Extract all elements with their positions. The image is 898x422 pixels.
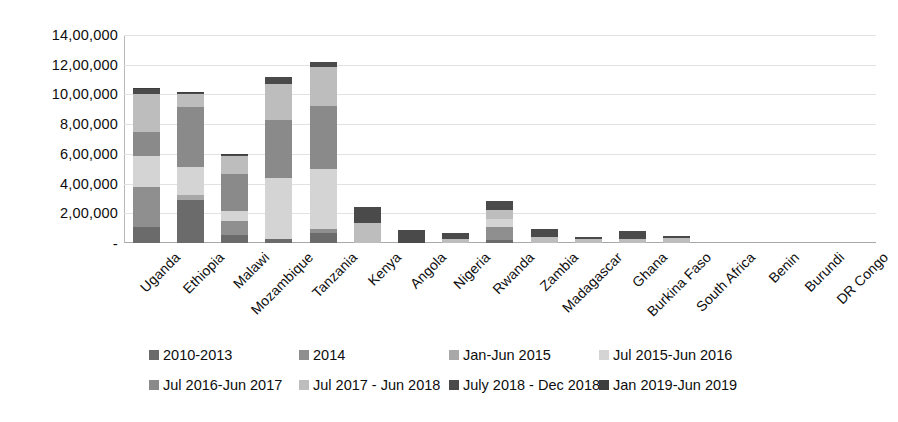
- bar-slot: [345, 35, 389, 243]
- bar-segment[interactable]: [265, 120, 292, 178]
- bar-segment[interactable]: [133, 94, 160, 131]
- bar-segment[interactable]: [486, 201, 513, 209]
- bar-segment[interactable]: [265, 84, 292, 120]
- x-axis-label: Benin: [766, 249, 803, 286]
- bar-stack[interactable]: [265, 77, 292, 243]
- legend-item[interactable]: Jul 2015-Jun 2016: [599, 348, 749, 363]
- stacked-bar-chart: -2,00,0004,00,0006,00,0008,00,00010,00,0…: [0, 0, 898, 422]
- bar-slot: [168, 35, 212, 243]
- bar-stack[interactable]: [663, 236, 690, 243]
- bar-stack[interactable]: [442, 233, 469, 243]
- bar-stack[interactable]: [531, 229, 558, 243]
- legend-swatch-icon: [599, 380, 609, 390]
- bar-stack[interactable]: [221, 154, 248, 243]
- bar-segment[interactable]: [310, 67, 337, 106]
- bar-slot: [478, 35, 522, 243]
- bar-stack[interactable]: [619, 231, 646, 243]
- y-axis-tick-label: 4,00,000: [18, 176, 118, 191]
- y-axis-tick-label: 12,00,000: [18, 57, 118, 72]
- legend-item[interactable]: Jul 2017 - Jun 2018: [299, 378, 449, 393]
- x-axis-labels: UgandaEthiopiaMalawiMozambiqueTanzaniaKe…: [124, 243, 876, 338]
- bar-stack[interactable]: [177, 92, 204, 243]
- y-axis-tick-label: 6,00,000: [18, 147, 118, 162]
- bar-segment[interactable]: [486, 227, 513, 240]
- bar-segment[interactable]: [177, 167, 204, 195]
- y-axis-tick-label: 10,00,000: [18, 87, 118, 102]
- chart-legend: 2010-20132014Jan-Jun 2015Jul 2015-Jun 20…: [0, 340, 898, 400]
- legend-item-label: July 2018 - Dec 2018: [463, 378, 600, 393]
- legend-item[interactable]: 2014: [299, 348, 449, 363]
- bar-segment[interactable]: [310, 169, 337, 228]
- bar-stack[interactable]: [133, 88, 160, 243]
- legend-item-label: Jul 2016-Jun 2017: [163, 378, 282, 393]
- legend-item[interactable]: Jul 2016-Jun 2017: [149, 378, 299, 393]
- bar-stack[interactable]: [398, 230, 425, 243]
- x-axis-label: Tanzania: [309, 249, 361, 301]
- legend-swatch-icon: [299, 380, 309, 390]
- bar-slot: [611, 35, 655, 243]
- bar-slot: [257, 35, 301, 243]
- bar-segment[interactable]: [265, 77, 292, 84]
- legend-item-label: 2010-2013: [163, 348, 232, 363]
- bar-segment[interactable]: [133, 187, 160, 227]
- legend-item-label: 2014: [313, 348, 345, 363]
- bar-segment[interactable]: [221, 235, 248, 243]
- bar-segment[interactable]: [133, 132, 160, 157]
- bar-slot: [212, 35, 256, 243]
- bar-slot: [743, 35, 787, 243]
- x-axis-label: Rwanda: [489, 249, 537, 297]
- bar-segment[interactable]: [221, 221, 248, 234]
- x-axis-label: Angola: [406, 249, 449, 292]
- legend-swatch-icon: [599, 350, 609, 360]
- bar-segment[interactable]: [310, 233, 337, 243]
- legend-item-label: Jan 2019-Jun 2019: [613, 378, 737, 393]
- x-axis-label: Kenya: [365, 249, 405, 289]
- legend-item[interactable]: 2010-2013: [149, 348, 299, 363]
- legend-swatch-icon: [299, 350, 309, 360]
- bar-segment[interactable]: [486, 219, 513, 227]
- y-axis: -2,00,0004,00,0006,00,0008,00,00010,00,0…: [14, 35, 118, 243]
- bar-slot: [832, 35, 876, 243]
- bar-segment[interactable]: [177, 107, 204, 166]
- bar-segment[interactable]: [354, 223, 381, 243]
- bar-series-group: [124, 35, 876, 243]
- y-axis-tick-label: 2,00,000: [18, 206, 118, 221]
- legend-item[interactable]: Jan-Jun 2015: [449, 348, 599, 363]
- bar-segment[interactable]: [486, 210, 513, 219]
- bar-slot: [788, 35, 832, 243]
- x-axis-label: Ethiopia: [180, 249, 228, 297]
- bar-segment[interactable]: [221, 211, 248, 221]
- bar-slot: [699, 35, 743, 243]
- bar-slot: [434, 35, 478, 243]
- bar-segment[interactable]: [177, 94, 204, 107]
- x-axis-label: Nigeria: [450, 249, 493, 292]
- legend-item[interactable]: Jan 2019-Jun 2019: [599, 378, 749, 393]
- legend-item[interactable]: July 2018 - Dec 2018: [449, 378, 599, 393]
- bar-segment[interactable]: [177, 200, 204, 243]
- bar-stack[interactable]: [310, 62, 337, 243]
- bar-segment[interactable]: [221, 156, 248, 174]
- legend-swatch-icon: [449, 380, 459, 390]
- bar-segment[interactable]: [265, 178, 292, 239]
- legend-item-label: Jul 2015-Jun 2016: [613, 348, 732, 363]
- legend-item-label: Jan-Jun 2015: [463, 348, 551, 363]
- y-axis-tick-label: -: [18, 236, 118, 251]
- x-axis-label: Malawi: [229, 249, 272, 292]
- bar-segment[interactable]: [619, 231, 646, 238]
- bar-segment[interactable]: [398, 230, 425, 243]
- legend-item-label: Jul 2017 - Jun 2018: [313, 378, 440, 393]
- bar-slot: [566, 35, 610, 243]
- x-axis-label: Uganda: [137, 249, 183, 295]
- bar-segment[interactable]: [310, 106, 337, 170]
- plot-area: [124, 35, 876, 243]
- bar-segment[interactable]: [221, 174, 248, 211]
- bar-segment[interactable]: [133, 227, 160, 243]
- bar-slot: [522, 35, 566, 243]
- legend-swatch-icon: [149, 380, 159, 390]
- bar-segment[interactable]: [354, 207, 381, 223]
- bar-segment[interactable]: [133, 156, 160, 187]
- bar-stack[interactable]: [486, 201, 513, 243]
- bar-segment[interactable]: [531, 229, 558, 237]
- bar-stack[interactable]: [354, 207, 381, 243]
- legend-swatch-icon: [149, 350, 159, 360]
